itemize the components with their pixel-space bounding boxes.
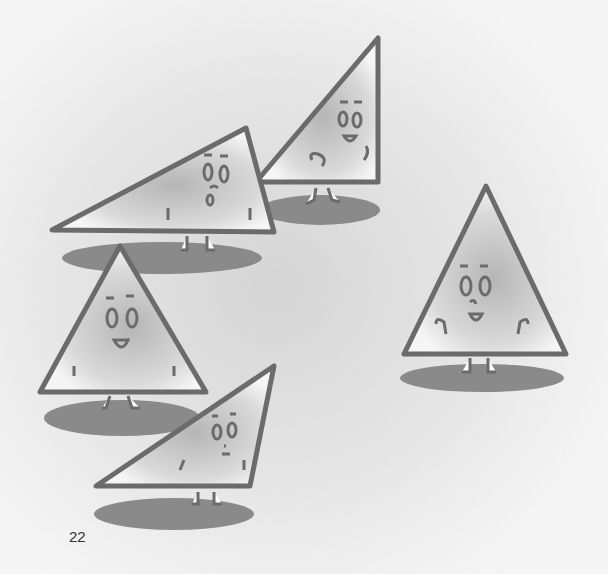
page-number: 22 bbox=[69, 528, 86, 545]
triangle-characters-illustration bbox=[0, 0, 608, 574]
shadow bbox=[400, 364, 564, 392]
shadow bbox=[94, 498, 254, 530]
shadow bbox=[260, 195, 380, 225]
shadow bbox=[62, 242, 262, 274]
